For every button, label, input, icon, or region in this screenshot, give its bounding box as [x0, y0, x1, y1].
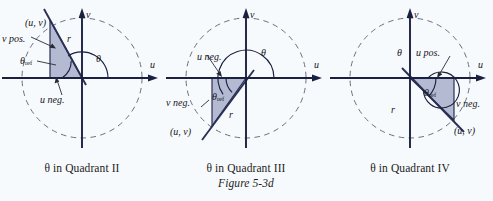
theta-ref-label: θref: [424, 88, 436, 99]
panel-caption-quadrant-3: θ in Quadrant III: [164, 162, 328, 174]
v-sign-label: v neg.: [166, 98, 190, 108]
u-axis-label: u: [478, 60, 483, 70]
u-axis-arrowhead: [148, 75, 158, 82]
v-sign-label: v pos.: [2, 34, 25, 44]
point-label: (u, v): [170, 127, 191, 137]
v-axis-arrowhead: [79, 8, 86, 18]
v-axis-label: v: [414, 10, 418, 20]
theta-label: θ: [261, 48, 266, 58]
diagram-quadrant-2: (u, v) v pos. θref r θ u neg. v u θ in Q…: [0, 0, 164, 201]
radius-label: r: [229, 110, 233, 120]
point-label: (u, v): [454, 126, 475, 136]
v-axis-label: v: [250, 10, 254, 20]
diagram-quadrant-4: θ u pos. θref v neg. r (u, v) v u θ in Q…: [328, 0, 492, 201]
v-axis-arrowhead: [407, 8, 414, 18]
theta-label: θ: [397, 48, 402, 58]
panel-caption-quadrant-4: θ in Quadrant IV: [328, 162, 492, 174]
radius-label: r: [391, 105, 395, 115]
u-axis-label: u: [314, 60, 319, 70]
leader-v-neg: [201, 100, 209, 107]
u-sign-label: u pos.: [416, 48, 440, 58]
v-axis-label: v: [86, 10, 90, 20]
v-axis-arrowhead: [243, 8, 250, 18]
panel-caption-quadrant-2: θ in Quadrant II: [0, 162, 164, 174]
theta-ref-label: θref: [212, 92, 224, 103]
leader-u-neg: [57, 80, 62, 95]
u-axis-arrowhead: [312, 75, 322, 82]
radius-label: r: [67, 34, 71, 44]
theta-label: θ: [96, 54, 101, 64]
quadrant-4-drawing: [328, 0, 492, 160]
theta-ref-label: θref: [20, 56, 32, 67]
figure-5-3d: (u, v) v pos. θref r θ u neg. v u θ in Q…: [0, 0, 493, 201]
u-axis-label: u: [150, 60, 155, 70]
u-sign-label: u neg.: [40, 95, 64, 105]
u-axis-arrowhead: [476, 75, 486, 82]
v-sign-label: v neg.: [456, 99, 480, 109]
u-sign-label: u neg.: [197, 52, 221, 62]
figure-number-caption: Figure 5-3d: [164, 177, 328, 189]
point-label: (u, v): [25, 18, 46, 28]
diagram-quadrant-3: u neg. v neg. θref r θ (u, v) v u θ in Q…: [164, 0, 328, 201]
